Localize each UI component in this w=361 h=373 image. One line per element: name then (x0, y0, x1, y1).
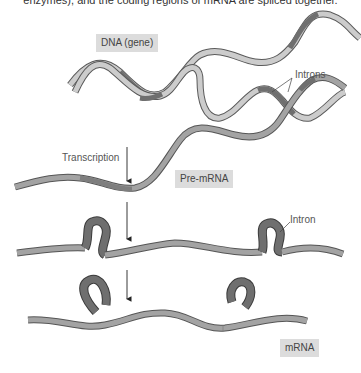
mrna-strand (28, 313, 307, 331)
mrna-label: mRNA (280, 339, 319, 357)
excised-intron-right (231, 282, 251, 307)
transcription-label: Transcription (62, 152, 119, 164)
introns-label: Introns (295, 69, 326, 81)
pre-mrna-label: Pre-mRNA (175, 170, 233, 188)
excised-intron-left (84, 279, 107, 312)
dna-strand-a (70, 14, 360, 98)
introns-pointer-lines (272, 78, 292, 92)
dna-gene-label: DNA (gene) (96, 34, 158, 52)
intron-label: Intron (290, 214, 316, 226)
